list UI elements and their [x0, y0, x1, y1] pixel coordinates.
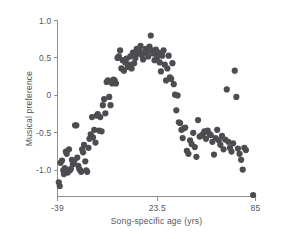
data-point	[131, 60, 137, 66]
x-tick-label: -39	[51, 203, 64, 213]
data-point	[185, 151, 191, 157]
data-point	[73, 122, 79, 128]
data-point	[107, 102, 113, 108]
data-point	[180, 135, 186, 141]
data-point	[224, 86, 230, 92]
data-point	[100, 102, 106, 108]
data-point	[174, 92, 180, 98]
y-tick-label: 0.5	[39, 53, 51, 63]
data-point	[158, 68, 164, 74]
data-point	[80, 149, 86, 155]
data-point	[211, 151, 217, 157]
data-point	[166, 53, 172, 59]
data-point	[84, 169, 90, 175]
y-tick-label: -0.5	[36, 128, 52, 138]
data-point	[171, 81, 177, 87]
data-point	[90, 134, 96, 140]
data-point	[240, 166, 246, 172]
data-point	[59, 157, 65, 163]
data-point	[228, 148, 234, 154]
data-point-group	[56, 32, 257, 198]
chart-figure: 1.00.50-0.5-1.0-3923.585Song-specific ag…	[0, 0, 281, 239]
data-point	[164, 65, 170, 71]
data-point	[214, 127, 220, 133]
data-point	[85, 145, 91, 151]
data-point	[102, 110, 108, 116]
data-point	[182, 125, 188, 131]
data-point	[160, 47, 166, 53]
data-point	[243, 147, 249, 153]
data-point	[74, 154, 80, 160]
data-point	[66, 146, 72, 152]
scatter-plot: 1.00.50-0.5-1.0-3923.585Song-specific ag…	[0, 0, 281, 239]
y-tick-label: 1.0	[39, 16, 51, 26]
data-point	[220, 146, 226, 152]
data-point	[57, 183, 63, 189]
x-tick-label: 85	[251, 203, 261, 213]
data-point	[92, 139, 98, 145]
x-tick-label: 23.5	[149, 203, 166, 213]
data-point	[159, 53, 165, 59]
data-point	[250, 192, 256, 198]
x-axis-title: Song-specific age (yrs)	[111, 216, 203, 226]
data-point	[177, 120, 183, 126]
data-point	[232, 68, 238, 74]
data-point	[235, 145, 241, 151]
data-point	[106, 94, 112, 100]
y-tick-label: 0	[47, 90, 52, 100]
data-point	[148, 32, 154, 38]
data-point	[169, 60, 175, 66]
data-point	[195, 117, 201, 123]
data-point	[238, 157, 244, 163]
data-point	[192, 144, 198, 150]
data-point	[97, 114, 103, 120]
data-point	[82, 158, 88, 164]
y-axis-title: Musical preference	[24, 71, 34, 146]
data-point	[117, 47, 123, 53]
data-point	[113, 80, 119, 86]
data-point	[233, 94, 239, 100]
data-point	[190, 130, 196, 136]
data-point	[98, 128, 104, 134]
y-tick-label: -1.0	[36, 165, 52, 175]
data-point	[236, 151, 242, 157]
data-point	[173, 107, 179, 113]
data-point	[193, 154, 199, 160]
data-point	[230, 140, 236, 146]
